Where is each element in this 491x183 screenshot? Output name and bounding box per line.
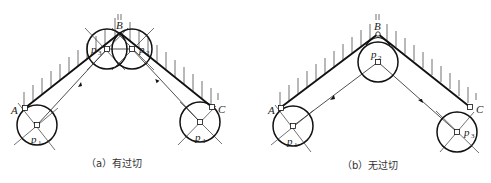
label-c-a: C xyxy=(218,103,226,115)
hatch-right-b xyxy=(387,24,476,103)
circle-p3-b xyxy=(436,105,479,154)
label-p2-a: p xyxy=(138,43,145,55)
sub-p3-b: 3 xyxy=(471,132,475,140)
label-p1-a: p xyxy=(30,133,37,145)
label-p1-b: p xyxy=(286,135,293,147)
sub-p1-a: 1 xyxy=(38,139,42,147)
circle-p1-b xyxy=(271,105,314,152)
path-segment-2-b xyxy=(378,62,457,132)
label-p4-a: p xyxy=(194,131,201,143)
point-b-marker xyxy=(376,32,380,36)
panel-b: B A C p 1 p 2 p 3 （b）无过切 xyxy=(267,14,484,171)
arrow-icon xyxy=(418,99,423,103)
arrow-icon xyxy=(154,78,160,84)
point-a-marker xyxy=(23,106,28,111)
sub-p4-a: 4 xyxy=(202,137,206,145)
cutting-diagram: B A C p 1 p 3 p 2 p 4 （a）有过切 xyxy=(0,0,491,183)
label-b-a: B xyxy=(116,19,123,31)
sub-p2-a: 2 xyxy=(146,49,150,57)
label-a-a: A xyxy=(10,104,18,116)
label-p2-b: p xyxy=(370,48,377,60)
caption-b: （b）无过切 xyxy=(342,159,398,171)
sub-p1-b: 1 xyxy=(294,141,298,149)
label-c-b: C xyxy=(476,103,484,115)
hatch-left-b xyxy=(280,14,379,108)
point-a-marker xyxy=(279,106,284,111)
panel-a: B A C p 1 p 3 p 2 p 4 （a）有过切 xyxy=(10,14,226,169)
label-p3-a: p xyxy=(90,43,97,55)
point-c-marker xyxy=(210,105,215,110)
sub-p2-b: 2 xyxy=(378,54,382,62)
hatch-right-a xyxy=(130,22,218,105)
caption-a: （a）有过切 xyxy=(86,157,142,169)
arrow-icon xyxy=(78,82,82,87)
label-b-b: B xyxy=(374,20,381,32)
label-p3-b: p xyxy=(463,126,470,138)
hatch-left-a xyxy=(24,14,121,108)
label-a-b: A xyxy=(267,104,275,116)
point-c-marker xyxy=(468,105,473,110)
sub-p3-a: 3 xyxy=(98,49,102,57)
wall-b xyxy=(280,34,470,108)
